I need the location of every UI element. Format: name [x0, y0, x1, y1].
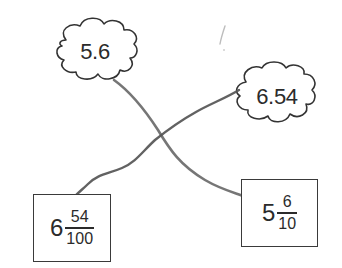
denominator: 100: [65, 229, 94, 247]
stray-pencil-mark: [220, 26, 225, 44]
stray-pencil-dot: [223, 49, 225, 51]
whole-number: 5: [262, 201, 275, 225]
connection-line-6-54-to-6-54-100: [73, 90, 239, 199]
answer-box-5-6-10: 5 6 10: [241, 179, 318, 247]
numerator: 6: [282, 194, 293, 212]
numerator: 54: [70, 209, 90, 227]
fraction: 54 100: [65, 209, 94, 247]
mixed-number-6-54-100: 6 54 100: [50, 209, 94, 247]
matching-diagram: 5.6 6.54 6 54 100 5 6 10: [0, 0, 342, 268]
cloud-value-5-6: 5.6: [80, 41, 110, 63]
fraction: 6 10: [277, 194, 297, 232]
denominator: 10: [277, 214, 297, 232]
mixed-number-5-6-10: 5 6 10: [262, 194, 297, 232]
answer-box-6-54-100: 6 54 100: [33, 194, 111, 262]
whole-number: 6: [50, 216, 63, 240]
cloud-value-6-54: 6.54: [256, 86, 298, 108]
